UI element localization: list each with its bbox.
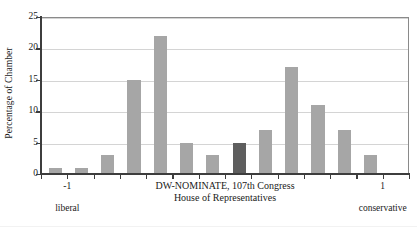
x-axis-tick [251,174,252,179]
x-axis-tick [120,174,121,179]
x-axis-tick [225,174,226,179]
x-axis-end-label: conservative [359,203,407,213]
bar [154,36,167,174]
y-axis-line [40,16,42,175]
bar [364,155,377,174]
bar [127,80,140,174]
y-axis-title: Percentage of Chamber [2,18,16,168]
x-axis-tick [330,174,331,179]
x-axis-tick [409,174,410,179]
bar [285,67,298,174]
bar [311,105,324,174]
x-axis-title: DW-NOMINATE, 107th Congress House of Rep… [41,180,409,203]
plot-area [41,17,409,174]
x-axis-tick [199,174,200,179]
bar [233,143,246,174]
gridline [41,81,408,82]
x-axis-title-line1: DW-NOMINATE, 107th Congress [41,180,409,192]
bar [259,130,272,174]
x-axis-end-label: liberal [55,203,79,213]
chart-container: Percentage of Chamber 0510152025 -11 lib… [0,0,417,227]
x-axis-title-line2: House of Representatives [41,192,409,204]
x-axis-tick [94,174,95,179]
x-axis-tick [67,174,68,179]
x-axis-tick [41,174,42,179]
scan-edge-artifact [0,226,417,227]
bar [101,155,114,174]
gridline [41,49,408,50]
gridline [41,112,408,113]
x-axis-tick [172,174,173,179]
x-axis-tick [304,174,305,179]
bar [338,130,351,174]
x-axis-tick [146,174,147,179]
y-axis-title-label: Percentage of Chamber [4,47,14,138]
x-axis-tick [383,174,384,179]
gridline [41,144,408,145]
bar [206,155,219,174]
gridline [41,18,408,19]
x-axis-tick [278,174,279,179]
y-axis-tick-labels: 0510152025 [16,16,38,174]
bar [180,143,193,174]
x-axis-tick [356,174,357,179]
